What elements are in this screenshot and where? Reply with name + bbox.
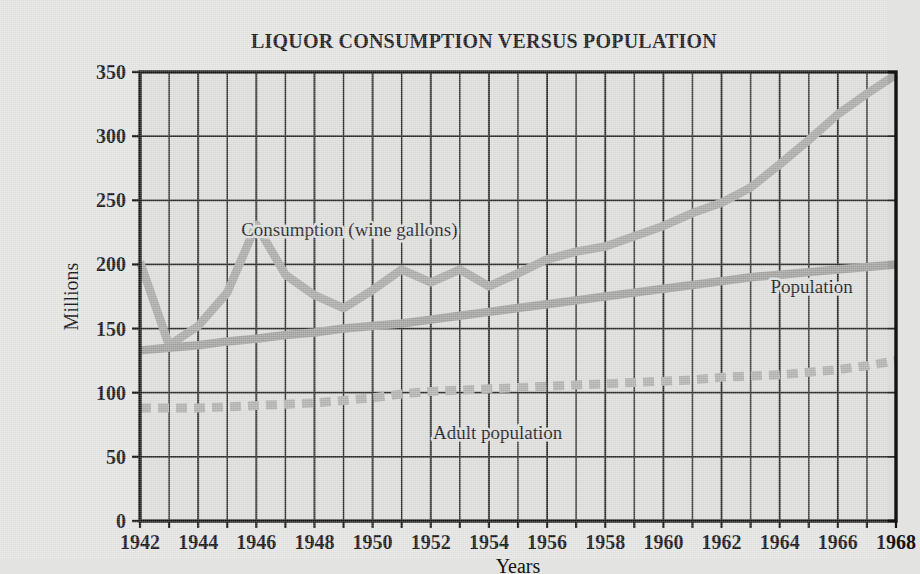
x-axis-title: Years [496, 555, 541, 574]
x-tick-label: 1952 [411, 531, 451, 553]
x-tick-label: 1962 [702, 531, 742, 553]
y-tick-label: 50 [106, 446, 126, 468]
annotation-adult-population: Adult population [433, 422, 563, 443]
y-axis-tick-labels-group: 050100150200250300350 [96, 61, 126, 532]
x-tick-label: 1956 [527, 531, 567, 553]
y-axis-title: Millions [60, 262, 82, 330]
x-tick-label: 1954 [469, 531, 509, 553]
x-tick-label: 1968 [876, 531, 916, 553]
x-tick-label: 1964 [760, 531, 800, 553]
x-axis-tick-labels-group: 1942194419461948195019521954195619581960… [120, 531, 916, 553]
annotation-consumption: Consumption (wine gallons) [241, 219, 457, 241]
y-tick-label: 350 [96, 61, 126, 83]
y-tick-label: 0 [116, 510, 126, 532]
x-tick-label: 1960 [643, 531, 683, 553]
y-tick-label: 300 [96, 125, 126, 147]
y-tick-label: 100 [96, 382, 126, 404]
x-tick-label: 1944 [178, 531, 218, 553]
x-tick-label: 1948 [294, 531, 334, 553]
annotation-population: Population [771, 276, 854, 297]
x-tick-label: 1946 [236, 531, 276, 553]
y-tick-label: 200 [96, 253, 126, 275]
x-tick-label: 1966 [818, 531, 858, 553]
liquor-consumption-chart: LIQUOR CONSUMPTION VERSUS POPULATION 194… [40, 16, 848, 542]
y-tick-label: 150 [96, 318, 126, 340]
chart-plot-area: 1942194419461948195019521954195619581960… [40, 16, 920, 574]
y-tick-label: 250 [96, 189, 126, 211]
x-tick-label: 1950 [353, 531, 393, 553]
x-tick-label: 1942 [120, 531, 160, 553]
x-tick-label: 1958 [585, 531, 625, 553]
